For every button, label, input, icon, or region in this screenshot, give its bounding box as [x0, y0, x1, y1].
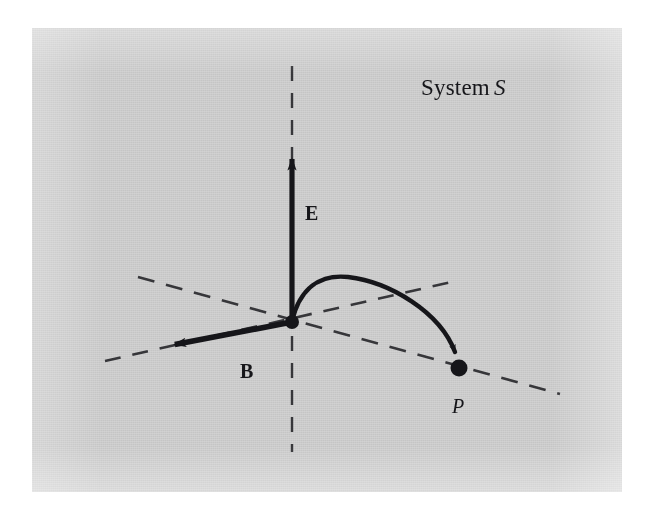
e-field-label: E	[305, 203, 318, 223]
diagram-panel: SystemS E B P	[32, 28, 622, 492]
origin-point	[285, 315, 299, 329]
particle-trajectory-arc	[292, 277, 455, 352]
system-title-symbol: S	[490, 75, 506, 100]
depth-dashed-axis	[105, 281, 456, 361]
b-field-vector	[175, 322, 292, 345]
point-p-dot	[451, 360, 468, 377]
figure-root: SystemS E B P	[0, 0, 646, 515]
system-title-label: SystemS	[421, 76, 506, 99]
system-title-prefix: System	[421, 75, 490, 100]
diagram-vector-graphics	[32, 28, 622, 492]
b-field-label: B	[240, 361, 253, 381]
point-p-label: P	[452, 396, 464, 416]
horizontal-dashed-axis	[138, 277, 560, 394]
